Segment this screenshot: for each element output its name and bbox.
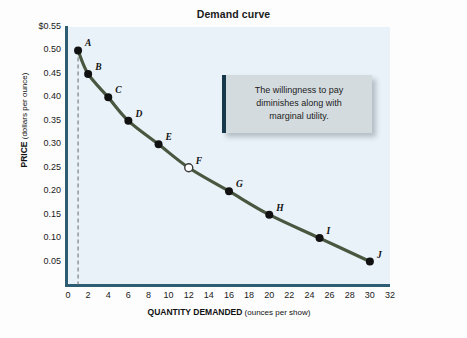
data-point-J[interactable] [366,258,374,266]
data-point-C[interactable] [104,93,112,101]
chart-title: Demand curve [0,8,467,20]
demand-curve-figure: the marginal utility of each additional … [0,0,467,338]
y-tick-label: 0.10 [21,233,61,242]
annotation-line-1: The willingness to pay [234,84,364,97]
y-tick-label: 0.50 [21,45,61,54]
data-point-A[interactable] [74,46,82,54]
y-tick-label: 0.05 [21,257,61,266]
data-point-label-D: D [135,110,142,120]
y-axis-label: PRICE (dollars per ounce) [19,60,29,180]
data-point-B[interactable] [84,70,92,78]
x-axis-label-bold: QUANTITY DEMANDED [148,307,243,317]
data-point-F[interactable] [185,164,193,172]
data-point-label-F: F [196,157,202,167]
data-point-label-G: G [236,180,243,190]
data-point-I[interactable] [316,234,324,242]
data-point-G[interactable] [225,187,233,195]
data-point-label-H: H [276,204,283,214]
data-point-label-I: I [327,227,331,237]
data-point-E[interactable] [155,140,163,148]
data-point-H[interactable] [265,211,273,219]
data-point-D[interactable] [124,117,132,125]
annotation-line-3: marginal utility. [234,110,364,123]
demand-curve-plot [68,27,390,285]
y-tick-label: 0.20 [21,186,61,195]
y-tick-label: $0.55 [21,22,61,31]
data-point-label-C: C [115,86,121,96]
x-axis-label-units: (ounces per show) [245,308,311,317]
y-axis-label-units: (dollars per ounce) [20,73,29,140]
annotation-callout: The willingness to pay diminishes along … [222,75,372,133]
annotation-line-2: diminishes along with [234,97,364,110]
data-point-label-J: J [377,251,382,261]
x-axis-label: QUANTITY DEMANDED (ounces per show) [68,307,390,317]
data-point-label-E: E [166,133,172,143]
x-tick-label: 32 [378,291,402,300]
y-axis-label-bold: PRICE [19,141,29,167]
data-point-label-A: A [85,39,91,49]
data-point-label-B: B [95,63,101,73]
y-tick-label: 0.15 [21,210,61,219]
